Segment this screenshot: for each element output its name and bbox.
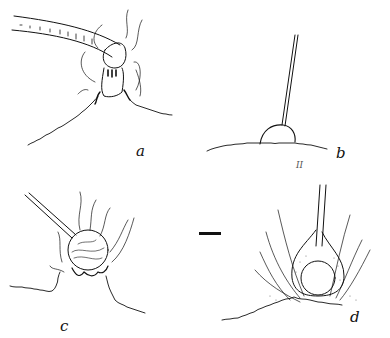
panel-b-drawing	[207, 35, 327, 151]
panel-label-b: b	[336, 144, 346, 162]
panel-c-drawing	[10, 192, 145, 313]
panel-d-drawing	[222, 185, 370, 320]
figure-mark: II	[296, 160, 303, 170]
panel-label-d: d	[350, 308, 360, 326]
figure-canvas	[0, 0, 390, 338]
panel-label-c: c	[60, 317, 68, 335]
panel-label-a: a	[136, 142, 145, 160]
panel-a-drawing	[12, 10, 172, 145]
scale-bar	[199, 232, 221, 235]
